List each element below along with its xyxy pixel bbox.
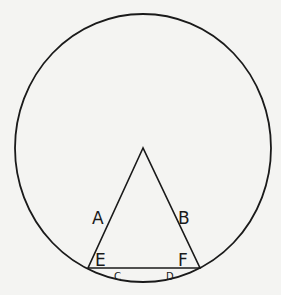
label-c: C xyxy=(114,271,121,282)
label-f: F xyxy=(178,250,188,270)
label-d: D xyxy=(166,271,174,282)
label-a: A xyxy=(92,208,104,228)
diagram-canvas: A B E F C D xyxy=(0,0,281,295)
label-b: B xyxy=(178,208,190,228)
label-e: E xyxy=(95,250,106,270)
